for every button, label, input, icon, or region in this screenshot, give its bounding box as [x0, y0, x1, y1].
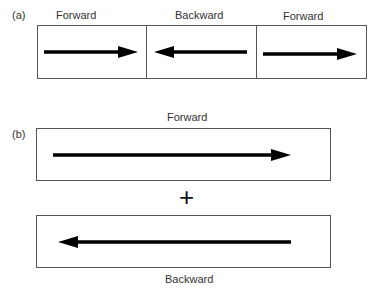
- arrow-right-icon: [44, 46, 138, 58]
- arrow-left-icon: [154, 46, 247, 58]
- arrow-left-icon: [58, 236, 291, 248]
- arrow-right-icon: [263, 48, 357, 60]
- arrows-layer: [0, 0, 372, 293]
- arrow-right-icon: [53, 149, 291, 161]
